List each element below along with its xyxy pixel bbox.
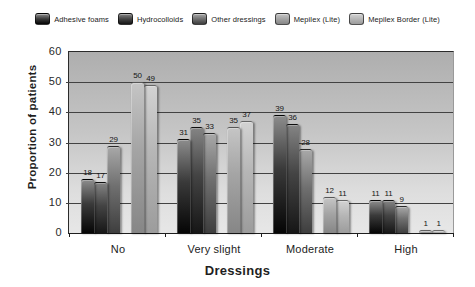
bar bbox=[144, 85, 157, 233]
bar bbox=[94, 182, 107, 233]
bar-value-label: 11 bbox=[333, 189, 353, 198]
category-label: High bbox=[366, 243, 446, 255]
bar-value-label: 37 bbox=[237, 110, 257, 119]
bar bbox=[299, 149, 312, 233]
x-tick-mark bbox=[69, 233, 70, 237]
legend-label: Other dressings bbox=[211, 15, 265, 24]
x-tick-mark bbox=[357, 233, 358, 237]
bar bbox=[419, 230, 432, 233]
legend-item: Adhesive foams bbox=[35, 13, 109, 25]
bar bbox=[107, 146, 120, 233]
bar-value-label: 9 bbox=[392, 195, 412, 204]
bar-value-label: 28 bbox=[296, 138, 316, 147]
bar-value-label: 29 bbox=[104, 135, 124, 144]
category-label: Moderate bbox=[270, 243, 350, 255]
legend-item: Mepilex (Lite) bbox=[275, 13, 340, 25]
gridline bbox=[66, 173, 453, 174]
legend-label: Mepilex Border (Lite) bbox=[368, 15, 440, 24]
bar bbox=[240, 121, 253, 233]
gridline bbox=[66, 82, 453, 83]
bar-chart-figure: Adhesive foamsHydrocolloidsOther dressin… bbox=[0, 0, 475, 287]
y-tick-label: 40 bbox=[36, 105, 62, 117]
plot-area: 1817295049313533353739362812111111911 bbox=[68, 51, 454, 234]
bar bbox=[432, 230, 445, 233]
bar-value-label: 33 bbox=[200, 122, 220, 131]
legend-label: Mepilex (Lite) bbox=[294, 15, 340, 24]
bar bbox=[227, 127, 240, 233]
bar bbox=[369, 200, 382, 233]
gridline bbox=[66, 112, 453, 113]
bar bbox=[203, 133, 216, 233]
legend-swatch-icon bbox=[192, 13, 207, 25]
bar bbox=[395, 206, 408, 233]
bar bbox=[131, 82, 144, 233]
legend-item: Hydrocolloids bbox=[118, 13, 183, 25]
legend-item: Other dressings bbox=[192, 13, 265, 25]
legend-swatch-icon bbox=[118, 13, 133, 25]
y-tick-label: 60 bbox=[36, 45, 62, 57]
legend-item: Mepilex Border (Lite) bbox=[349, 13, 440, 25]
x-tick-mark bbox=[261, 233, 262, 237]
legend-swatch-icon bbox=[35, 13, 50, 25]
bar-value-label: 31 bbox=[174, 128, 194, 137]
bar bbox=[177, 139, 190, 233]
gridline bbox=[66, 143, 453, 144]
category-label: Very slight bbox=[174, 243, 254, 255]
x-axis-title: Dressings bbox=[0, 263, 475, 278]
x-tick-mark bbox=[165, 233, 166, 237]
bar-value-label: 49 bbox=[141, 74, 161, 83]
bar-value-label: 39 bbox=[270, 104, 290, 113]
bar bbox=[190, 127, 203, 233]
y-tick-label: 10 bbox=[36, 196, 62, 208]
bar-value-label: 17 bbox=[91, 171, 111, 180]
legend-label: Adhesive foams bbox=[54, 15, 109, 24]
bar bbox=[382, 200, 395, 233]
bar bbox=[273, 115, 286, 233]
category-label: No bbox=[78, 243, 158, 255]
legend: Adhesive foamsHydrocolloidsOther dressin… bbox=[0, 13, 475, 25]
legend-label: Hydrocolloids bbox=[137, 15, 183, 24]
y-tick-label: 30 bbox=[36, 136, 62, 148]
y-tick-label: 20 bbox=[36, 166, 62, 178]
legend-swatch-icon bbox=[349, 13, 364, 25]
bar bbox=[81, 179, 94, 233]
y-tick-label: 50 bbox=[36, 75, 62, 87]
x-tick-mark bbox=[453, 233, 454, 237]
bar-value-label: 1 bbox=[429, 219, 449, 228]
bar bbox=[323, 197, 336, 233]
legend-swatch-icon bbox=[275, 13, 290, 25]
bar bbox=[336, 200, 349, 233]
y-tick-label: 0 bbox=[36, 226, 62, 238]
bar-value-label: 36 bbox=[283, 113, 303, 122]
